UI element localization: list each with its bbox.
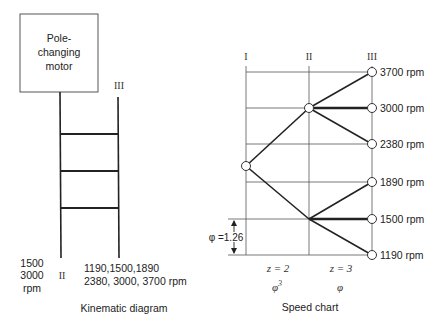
speed-label-1190: 1190 rpm [380, 249, 424, 261]
node-3000 [368, 104, 377, 113]
phi-value-label: φ =1.26 [209, 232, 244, 243]
arrow-down-icon [231, 248, 237, 254]
figure: Pole- changing motor III 1500 3000 rpm I… [0, 0, 442, 332]
group-label-z3: z = 3 [329, 262, 353, 274]
node-1190 [368, 251, 377, 260]
shaft-label-i: I [244, 51, 247, 62]
node-1890 [368, 178, 377, 187]
speed-label-2380: 2380 rpm [380, 138, 425, 150]
motor-label-line1: Pole- [47, 32, 72, 44]
node-shaft-ii-3000 [305, 104, 314, 113]
ray-3000-to-3700 [309, 72, 372, 108]
shaft-label-iii: III [367, 51, 377, 62]
shaft-ii-speed-1500: 1500 [20, 257, 44, 269]
arrow-up-icon [231, 220, 237, 226]
shaft-ii-speed-unit: rpm [23, 282, 41, 294]
motor-label-line2: changing [38, 46, 81, 58]
ray-1500-to-1190 [309, 219, 372, 255]
speed-chart-caption: Speed chart [282, 301, 339, 313]
ray-1500-to-1890 [309, 182, 372, 219]
speed-label-1890: 1890 rpm [380, 176, 425, 188]
speed-label-1500: 1500 rpm [380, 213, 425, 225]
ratio-label-phi-cubed: φ3 [272, 279, 282, 293]
ray-3000-to-2380 [309, 108, 372, 144]
node-1500 [368, 215, 377, 224]
speed-label-3000: 3000 rpm [380, 102, 425, 114]
node-shaft-i [242, 162, 251, 171]
node-2380 [368, 140, 377, 149]
node-3700 [368, 68, 377, 77]
ray-i-to-ii-1500 [246, 166, 309, 219]
shaft-iii [118, 97, 119, 258]
shaft-ii-speed-3000: 3000 [20, 269, 44, 281]
shaft-iii-label: III [114, 80, 124, 91]
shaft-label-ii: II [306, 51, 313, 62]
ray-i-to-ii-3000 [246, 108, 309, 166]
speed-label-3700: 3700 rpm [380, 66, 425, 78]
kinematic-caption: Kinematic diagram [81, 302, 168, 314]
shaft-iii-speeds-line2: 2380, 3000, 3700 rpm [84, 275, 187, 287]
shaft-iii-speeds-line1: 1190,1500,1890 [84, 262, 159, 274]
kinematic-diagram: Pole- changing motor III 1500 3000 rpm I… [20, 14, 187, 314]
shaft-ii [60, 92, 61, 258]
group-label-z2: z = 2 [266, 262, 290, 274]
shaft-ii-label: II [59, 270, 66, 281]
ratio-label-phi: φ [337, 281, 343, 293]
speed-chart: I II III 3700 rpm [209, 51, 425, 313]
motor-label-line3: motor [46, 60, 73, 72]
